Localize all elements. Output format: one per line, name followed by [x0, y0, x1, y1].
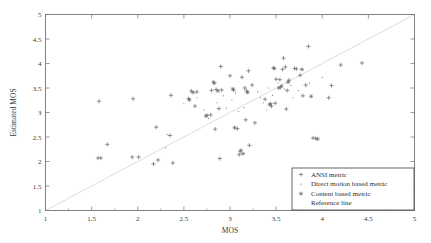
x-tick-label: 2.5	[180, 215, 189, 223]
y-tick-label: 5	[38, 11, 42, 19]
series-content-based-metric	[187, 66, 319, 155]
legend-label: ANSI metric	[311, 171, 347, 179]
legend-label: Reference line	[311, 199, 352, 207]
x-tick-label: 2	[136, 215, 140, 223]
scatter-plot-figure: 11.522.533.544.5511.522.533.544.55MOSEst…	[0, 0, 431, 243]
plot-canvas: 11.522.533.544.5511.522.533.544.55MOSEst…	[0, 0, 431, 243]
y-tick-label: 4	[38, 60, 42, 68]
x-tick-label: 4.5	[364, 215, 373, 223]
y-tick-label: 1	[38, 207, 42, 215]
legend: ANSI metricDirect motion based metricCon…	[292, 168, 414, 210]
y-tick-label: 1.5	[33, 183, 42, 191]
series-direct-motion-based-metric	[165, 77, 323, 149]
legend-entry: Reference line	[311, 199, 352, 207]
x-tick-label: 5	[413, 215, 417, 223]
x-tick-label: 3.5	[272, 215, 281, 223]
legend-label: Direct motion based metric	[311, 180, 387, 188]
x-tick-label: 1	[44, 215, 48, 223]
y-tick-label: 2.5	[33, 134, 42, 142]
x-tick-label: 1.5	[87, 215, 96, 223]
x-tick-label: 4	[321, 215, 325, 223]
legend-entry: Direct motion based metric	[300, 180, 387, 188]
x-tick-label: 3	[228, 215, 232, 223]
y-tick-label: 4.5	[33, 36, 42, 44]
legend-label: Content based metric	[311, 190, 370, 198]
y-tick-label: 2	[38, 158, 42, 166]
y-tick-label: 3	[38, 109, 42, 117]
y-tick-label: 3.5	[33, 85, 42, 93]
x-axis-title: MOS	[222, 226, 238, 235]
y-axis-title: Estimated MOS	[9, 88, 18, 136]
